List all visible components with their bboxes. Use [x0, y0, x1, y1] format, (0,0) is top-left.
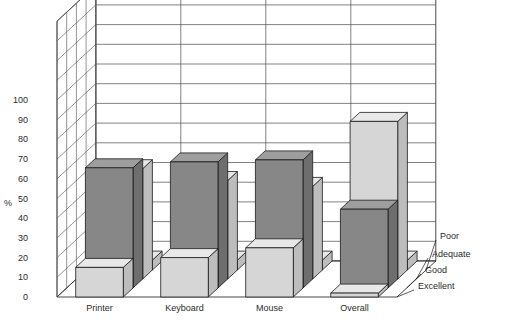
bar-front-good-overall — [340, 209, 388, 288]
bar-side-adequate-overall — [398, 112, 408, 279]
bar-side-adequate-mouse — [313, 177, 323, 279]
bar-top-excellent-overall — [331, 284, 388, 293]
bar-side-good-mouse — [303, 151, 313, 288]
bar-front-excellent-printer — [76, 267, 124, 297]
bar-side-adequate-printer — [143, 160, 153, 279]
depth-axis-label-poor: Poor — [440, 231, 459, 241]
depth-axis-label-adequate: Adequate — [432, 249, 471, 259]
bar-top-good-printer — [85, 159, 142, 168]
bar-side-good-overall — [388, 200, 398, 288]
bar-front-excellent-mouse — [246, 248, 294, 297]
bar-top-good-mouse — [255, 151, 312, 160]
bar-side-good-printer — [133, 159, 143, 288]
bar-side-excellent-mouse — [293, 239, 303, 297]
bar-side-good-keyboard — [218, 153, 228, 288]
x-axis-label-mouse: Mouse — [256, 303, 283, 313]
bar-top-excellent-mouse — [246, 239, 303, 248]
chart-container: Self-Assessed Competence % 0102030405060… — [0, 0, 520, 323]
x-axis-label-printer: Printer — [86, 303, 113, 313]
depth-axis-label-excellent: Excellent — [418, 281, 455, 291]
bar-front-excellent-overall — [331, 293, 379, 297]
x-axis-label-keyboard: Keyboard — [165, 303, 204, 313]
x-axis-label-overall: Overall — [340, 303, 369, 313]
bar-side-adequate-keyboard — [228, 172, 238, 280]
bar-front-excellent-keyboard — [161, 258, 209, 297]
bar-top-good-keyboard — [170, 153, 227, 162]
bar-top-excellent-printer — [76, 258, 133, 267]
bar-top-excellent-keyboard — [161, 249, 218, 258]
bar-top-adequate-overall — [350, 112, 407, 121]
depth-axis-label-good: Good — [425, 265, 447, 275]
bar-top-good-overall — [340, 200, 397, 209]
